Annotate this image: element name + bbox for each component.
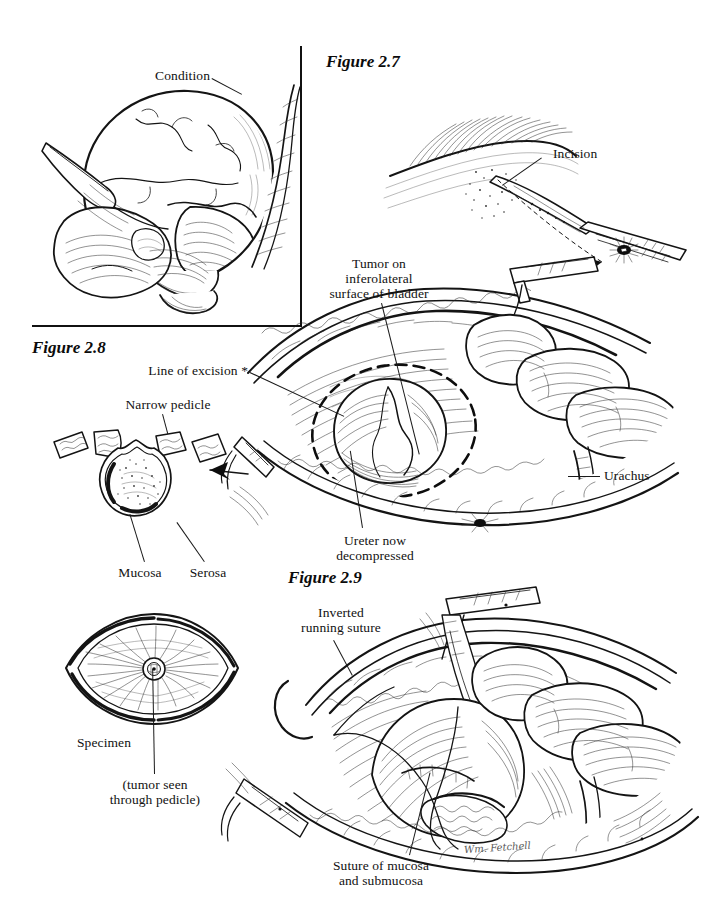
label-tumor-seen-1: (tumor seen: [122, 777, 187, 793]
label-specimen: Specimen: [77, 735, 131, 751]
transfer-arrow: [210, 462, 248, 480]
retractor-bottom-left: [222, 763, 309, 841]
leader-urachus: [568, 476, 600, 477]
figure-2-8-pedicle-section-art: [52, 418, 252, 538]
figure-2-7-incision-art: [380, 100, 700, 270]
label-incision: Incision: [553, 146, 597, 162]
figure-2-8-title: Figure 2.8: [32, 338, 106, 358]
figure-2-7-title: Figure 2.7: [326, 52, 400, 72]
figure-2-9-closure-art: [250, 585, 700, 875]
curved-needle: [275, 681, 312, 739]
bladder-tumor: [334, 379, 446, 487]
label-narrow-pedicle: Narrow pedicle: [126, 397, 211, 413]
label-mucosa: Mucosa: [118, 565, 161, 581]
label-tumor-seen-2: through pedicle): [110, 792, 200, 808]
label-urachus: Urachus: [604, 468, 650, 484]
label-ureter-line-1: Ureter now: [344, 533, 406, 549]
label-condition: Condition: [155, 68, 210, 84]
atlas-page: Condition Figure 2.7: [0, 0, 704, 923]
wall-segment-far-right: [192, 434, 226, 462]
label-serosa: Serosa: [190, 565, 227, 581]
label-tumor-line-3: surface of bladder: [329, 286, 428, 302]
label-line-of-excision: Line of excision *: [148, 363, 248, 379]
label-suture-mucosa-1: Suture of mucosa: [333, 858, 429, 874]
label-tumor-line-2: inferolateral: [345, 271, 412, 287]
label-tumor-line-1: Tumor on: [352, 256, 406, 272]
label-suture-mucosa-2: and submucosa: [339, 873, 423, 889]
wall-segment-far-left: [54, 432, 88, 458]
label-ureter-line-2: decompressed: [336, 548, 414, 564]
